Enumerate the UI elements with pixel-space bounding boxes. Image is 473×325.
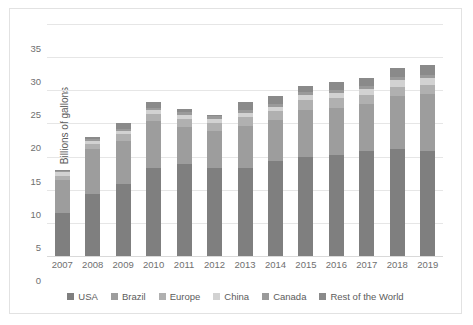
- x-axis-tick-label: 2011: [169, 259, 199, 270]
- bar-segment: [85, 139, 100, 140]
- bar-segment: [55, 172, 70, 175]
- bar-segment: [390, 68, 405, 77]
- bar-segment: [298, 110, 313, 157]
- bar-segment: [420, 65, 435, 75]
- bar-segment: [359, 89, 374, 95]
- bar-segment: [359, 95, 374, 104]
- y-axis-tick-label: 5: [1, 241, 41, 252]
- bar-segment: [390, 77, 405, 80]
- x-axis-line: [47, 256, 443, 257]
- bar-segment: [55, 180, 70, 213]
- bar-segment: [116, 129, 131, 131]
- legend-item[interactable]: Rest of the World: [319, 291, 403, 302]
- bar-segment: [359, 151, 374, 256]
- y-axis-tick-label: 15: [1, 175, 41, 186]
- bar-segment: [146, 102, 161, 108]
- bar-stack: [298, 86, 313, 256]
- plot-area: [47, 24, 443, 256]
- legend-swatch-icon: [213, 293, 220, 300]
- bar-stack: [390, 68, 405, 256]
- legend-swatch-icon: [262, 293, 269, 300]
- bar-segment: [55, 170, 70, 171]
- bar-segment: [85, 149, 100, 195]
- bar-segment: [116, 184, 131, 256]
- legend-swatch-icon: [111, 293, 118, 300]
- bar-segment: [329, 82, 344, 89]
- bar-segment: [298, 157, 313, 256]
- bar-segment: [116, 134, 131, 141]
- x-axis-tick-label: 2010: [138, 259, 168, 270]
- legend-item[interactable]: Brazil: [111, 291, 146, 302]
- legend-item[interactable]: China: [213, 291, 249, 302]
- bar-segment: [146, 110, 161, 113]
- bar-segment: [390, 149, 405, 256]
- bar-stack: [207, 115, 222, 256]
- bar-segment: [420, 75, 435, 78]
- legend-item-label: Canada: [273, 291, 306, 302]
- bar-segment: [329, 108, 344, 155]
- legend-item[interactable]: USA: [67, 291, 98, 302]
- y-axis-tick-label: 10: [1, 208, 41, 219]
- x-axis-tick-label: 2017: [352, 259, 382, 270]
- x-axis: 2007200820092010201120122013201420152016…: [47, 259, 443, 275]
- bar-segment: [359, 86, 374, 89]
- bar-stack: [238, 102, 253, 256]
- bar-stack: [420, 65, 435, 256]
- x-axis-tick-label: 2009: [108, 259, 138, 270]
- y-axis: Billions of gallons 05101520253035: [0, 24, 47, 256]
- bar-segment: [177, 115, 192, 119]
- legend-item-label: Rest of the World: [330, 291, 403, 302]
- bar-segment: [177, 119, 192, 127]
- y-axis-tick-label: 35: [1, 43, 41, 54]
- bar-segment: [177, 164, 192, 256]
- legend-swatch-icon: [319, 293, 326, 300]
- bar-stack: [116, 123, 131, 256]
- bar-stack: [268, 96, 283, 256]
- bar-segment: [359, 78, 374, 85]
- bar-stack: [329, 82, 344, 256]
- bar-segment: [238, 113, 253, 117]
- bar-segment: [390, 80, 405, 87]
- bar-stack: [146, 102, 161, 256]
- bar-segment: [268, 111, 283, 120]
- x-axis-tick-label: 2008: [77, 259, 107, 270]
- bar-segment: [116, 131, 131, 134]
- y-axis-tick-label: 20: [1, 142, 41, 153]
- bar-segment: [85, 141, 100, 144]
- bar-segment: [359, 104, 374, 151]
- legend-item[interactable]: Canada: [262, 291, 306, 302]
- bar-segment: [238, 168, 253, 256]
- y-axis-tick-label: 30: [1, 76, 41, 87]
- bar-segment: [420, 85, 435, 94]
- bar-segment: [116, 123, 131, 128]
- bar-segment: [268, 96, 283, 104]
- bar-segment: [55, 176, 70, 180]
- bar-segment: [268, 107, 283, 111]
- bar-segment: [207, 123, 222, 131]
- bar-segment: [420, 94, 435, 151]
- bar-segment: [146, 108, 161, 110]
- bar-segment: [207, 131, 222, 168]
- bar-segment: [238, 110, 253, 113]
- legend-item[interactable]: Europe: [159, 291, 201, 302]
- bar-segment: [85, 137, 100, 140]
- bar-segment: [420, 78, 435, 85]
- bar-segment: [390, 96, 405, 149]
- bar-segment: [298, 92, 313, 95]
- bar-series-container: [47, 24, 443, 256]
- bar-stack: [85, 137, 100, 256]
- chart-legend: USABrazilEuropeChinaCanadaRest of the Wo…: [9, 288, 462, 304]
- bar-segment: [298, 86, 313, 92]
- bar-segment: [146, 168, 161, 256]
- bar-segment: [420, 151, 435, 256]
- legend-swatch-icon: [159, 293, 166, 300]
- legend-item-label: Brazil: [122, 291, 146, 302]
- bar-segment: [146, 121, 161, 167]
- x-axis-tick-label: 2018: [382, 259, 412, 270]
- bar-segment: [329, 90, 344, 93]
- x-axis-tick-label: 2007: [47, 259, 77, 270]
- legend-swatch-icon: [67, 293, 74, 300]
- legend-item-label: China: [224, 291, 249, 302]
- bar-segment: [268, 104, 283, 107]
- bar-segment: [268, 161, 283, 256]
